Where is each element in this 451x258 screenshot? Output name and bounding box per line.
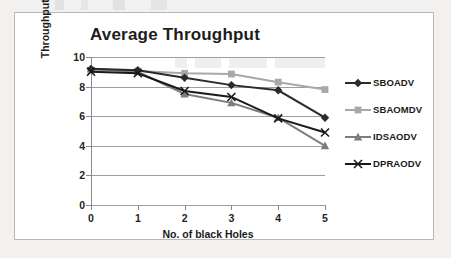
legend-label: IDSAODV [373, 131, 417, 142]
data-point-marker [274, 86, 282, 94]
legend-label: SBOADV [373, 77, 414, 88]
square-marker-icon [345, 104, 371, 116]
triangle-marker-icon [345, 131, 371, 143]
chart-frame: Average Throughput 0246810 Throughput(kb… [14, 12, 434, 240]
y-axis-tick [86, 87, 91, 88]
legend-label: DPRAODV [373, 158, 421, 169]
series-plot [91, 57, 325, 205]
x-axis-tick-label: 3 [228, 212, 234, 224]
x-axis-ticks [91, 205, 325, 210]
y-axis-tick-labels: 0246810 [59, 57, 85, 205]
y-axis-tick-label: 6 [59, 110, 85, 122]
x-axis-tick [278, 205, 279, 210]
y-axis-title: Throughput(kbps) [39, 0, 53, 73]
data-point-marker [321, 142, 329, 150]
diamond-marker-icon [345, 77, 371, 89]
x-axis-tick [91, 205, 92, 210]
chart-legend: SBOADVSBAOMDVIDSAODVDPRAODV [345, 69, 437, 177]
scan-noise-artifact-top [55, 0, 245, 10]
legend-item-dpraodv[interactable]: DPRAODV [345, 150, 437, 177]
series-idsaodv [87, 65, 329, 150]
plot-area [91, 57, 325, 205]
x-axis-tick-labels: 012345 [91, 212, 325, 226]
y-axis-tick [86, 116, 91, 117]
y-axis-tick-label: 4 [59, 140, 85, 152]
x-axis-tick [138, 205, 139, 210]
legend-label: SBAOMDV [373, 104, 422, 115]
legend-item-sboadv[interactable]: SBOADV [345, 69, 437, 96]
data-point-marker [322, 86, 329, 93]
x-axis-title: No. of black Holes [91, 228, 325, 240]
x-axis-tick [231, 205, 232, 210]
data-point-marker [228, 71, 235, 78]
legend-item-sbaomdv[interactable]: SBAOMDV [345, 96, 437, 123]
x-axis-tick-label: 0 [88, 212, 94, 224]
x-axis-tick-label: 2 [182, 212, 188, 224]
x-axis-tick-label: 4 [275, 212, 281, 224]
x-marker-icon [345, 158, 371, 170]
y-axis-tick [86, 57, 91, 58]
x-axis-tick [325, 205, 326, 210]
data-point-marker [227, 81, 235, 89]
y-axis-tick-label: 2 [59, 169, 85, 181]
x-axis-tick-label: 1 [135, 212, 141, 224]
y-axis-tick [86, 146, 91, 147]
legend-item-idsaodv[interactable]: IDSAODV [345, 123, 437, 150]
data-point-marker [275, 79, 282, 86]
chart-title: Average Throughput [15, 25, 335, 45]
series-line [91, 69, 325, 146]
x-axis-tick [185, 205, 186, 210]
y-axis-tick-label: 8 [59, 81, 85, 93]
x-axis-tick-label: 5 [322, 212, 328, 224]
y-axis-tick [86, 175, 91, 176]
y-axis-tick-label: 0 [59, 199, 85, 211]
data-point-marker [321, 113, 329, 121]
y-axis-tick-label: 10 [59, 51, 85, 63]
